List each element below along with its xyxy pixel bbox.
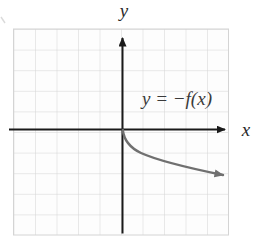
graph-figure: y x y = −f(x) [0, 0, 257, 250]
graph-canvas: y x y = −f(x) [0, 0, 257, 250]
page-corner-artifact [1, 17, 5, 23]
equation-label: y = −f(x) [140, 88, 212, 110]
x-axis-label: x [241, 119, 251, 140]
y-axis-label: y [118, 0, 129, 21]
grid [14, 29, 229, 235]
